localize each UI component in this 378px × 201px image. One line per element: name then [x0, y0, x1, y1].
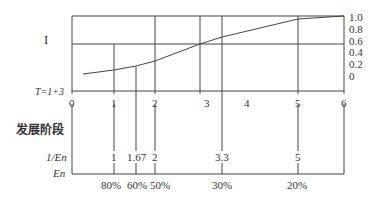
en-value: 80%: [101, 179, 121, 191]
x-tick: 0: [69, 97, 75, 109]
en-label: En: [53, 167, 65, 179]
en-value: 60%: [127, 179, 147, 191]
i-curve: [83, 16, 344, 74]
x-tick: 1: [111, 97, 117, 109]
inv-en-value: 3.3: [215, 151, 229, 163]
inv-en-label: 1/En: [46, 151, 67, 163]
right-scale-tick: 0.2: [349, 58, 363, 70]
inv-en-value: 1.67: [127, 151, 146, 163]
en-value: 50%: [150, 179, 170, 191]
x-tick: 2: [152, 97, 158, 109]
right-scale-tick: 1.0: [349, 11, 363, 23]
inv-en-value: 5: [295, 151, 301, 163]
right-scale-tick: 0: [349, 70, 355, 82]
stage-label: 发展阶段: [16, 124, 64, 136]
right-scale-tick: 0.4: [349, 46, 363, 58]
x-tick: 4: [244, 97, 250, 109]
en-value: 30%: [212, 179, 232, 191]
panel-label: I: [44, 34, 48, 46]
x-tick: 6: [341, 97, 347, 109]
right-scale-tick: 0.8: [349, 23, 363, 35]
en-value: 20%: [287, 179, 307, 191]
t-label: T=1+3: [35, 86, 64, 98]
inv-en-value: 2: [152, 151, 158, 163]
x-tick: 5: [295, 97, 301, 109]
inv-en-value: 1: [111, 151, 117, 163]
x-tick: 3: [204, 97, 210, 109]
